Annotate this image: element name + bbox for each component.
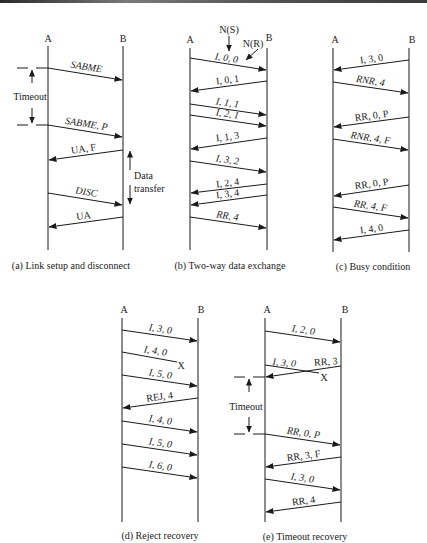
station-b-label: B [120,33,127,44]
hdlc-diagram: A B SABME SABME, P UA, F DISC UA Timeout… [0,0,427,543]
message-label: UA, F [70,141,97,155]
station-a-label: A [44,33,52,44]
message-label: I, 3, 0 [289,470,315,484]
caption-c: (c) Busy condition [336,261,410,273]
station-a-label: A [331,34,339,45]
station-b-label: B [342,304,349,315]
data-transfer-label: transfer [134,183,165,194]
message-label: I, 3, 4 [215,187,240,201]
message-label: RR, 4 [215,208,240,222]
message-label: DISC [74,184,99,199]
lost-frame-x-icon: X [177,360,185,371]
data-transfer-label: Data [134,170,153,181]
message-label: I, 1, 3 [215,129,240,143]
station-a-label: A [263,304,271,315]
message-label: I, 3, 2 [214,152,240,166]
message-label: I, 2, 0 [290,322,316,336]
timeout-label: Timeout [229,401,263,412]
message-label: RR, 3, F [286,448,321,463]
timeout-label: Timeout [13,91,47,102]
station-b-label: B [266,32,273,43]
message-label: I, 6, 0 [147,458,173,472]
nr-pointer-arrow [246,49,258,60]
caption-d: (d) Reject recovery [121,530,198,542]
caption-a: (a) Link setup and disconnect [12,260,131,272]
station-a-label: A [120,304,128,315]
message-label: I, 4, 0 [142,343,168,357]
lost-frame-x-icon: X [320,372,328,383]
message-label: I, 3, 0 [271,356,296,369]
message-label: SABME, P [65,115,109,133]
message-label: I, 2, 1 [214,106,240,120]
message-label: I, 5, 0 [147,435,173,449]
message-label: UA [76,209,93,222]
caption-e: (e) Timeout recovery [263,531,347,543]
message-label: I, 4, 0 [147,412,173,426]
message-label: RR, 3 [314,355,338,368]
caption-b: (b) Two-way data exchange [174,260,286,272]
message-label: I, 3, 0 [147,321,173,335]
station-a-label: A [186,34,194,45]
panel-e [234,318,341,522]
station-b-label: B [198,304,205,315]
ns-label: N(S) [219,24,238,36]
message-label: RNR, 4, F [349,129,392,146]
message-label: RR, 0, P [354,108,389,123]
message-label: I, 5, 0 [147,366,173,380]
station-b-label: B [409,34,416,45]
nr-label: N(R) [243,38,264,50]
message-label: I, 0, 1 [215,73,240,87]
message-label: RR, 4, F [352,197,388,213]
